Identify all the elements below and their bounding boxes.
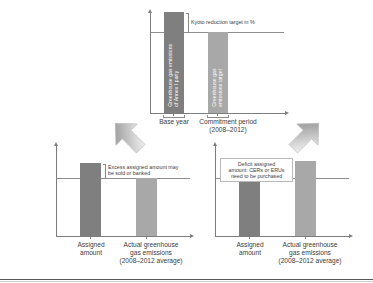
bar-label-line-2: emissions target: [218, 69, 224, 107]
bottom-right-chart: Deficit assigned amount: CERs or ERUs ne…: [215, 145, 355, 237]
xlabel-line-1: Actual greenhouse: [271, 241, 349, 249]
top-chart-reduction-callout: Kyoto reduction target in %: [191, 19, 255, 25]
right-chart-bar-assigned-amount: [239, 178, 260, 236]
left-chart-excess-callout: Excess assigned amount may be sold or ba…: [108, 164, 188, 177]
right-chart-y-axis: [215, 145, 216, 237]
top-chart-reduction-brace: [186, 13, 189, 33]
callout-line-2: be sold or banked: [108, 170, 188, 176]
top-chart-bar-commitment: Greenhouse gas emissions target: [208, 32, 228, 113]
xlabel-line-1: Assigned: [64, 241, 118, 249]
top-chart: Greenhouse gas emissions of Annex I part…: [150, 12, 290, 114]
xlabel-line-2: gas emissions: [271, 249, 349, 257]
top-chart-bar-base-year: Greenhouse gas emissions of Annex I part…: [164, 12, 184, 113]
right-chart-bar-actual-emissions: [295, 161, 316, 236]
xlabel-line-2: amount: [223, 249, 277, 257]
xlabel-line-3: (2008–2012 average): [271, 257, 349, 265]
left-chart-y-axis: [56, 145, 57, 237]
kyoto-protocol-diagram: Greenhouse gas emissions of Annex I part…: [0, 0, 373, 283]
top-chart-xlabel-commitment: Commitment period (2008–2012): [182, 118, 274, 134]
left-chart-reference-line: [57, 178, 190, 179]
xlabel-line-2: (2008–2012): [182, 126, 274, 134]
left-chart-tick-assigned: [90, 236, 91, 239]
xlabel-line-2: gas emissions: [112, 249, 190, 257]
left-chart-bar-assigned-amount: [80, 163, 101, 236]
top-chart-y-axis: [150, 12, 151, 114]
bottom-left-chart: Excess assigned amount may be sold or ba…: [56, 145, 196, 237]
left-chart-excess-brace: [103, 164, 106, 179]
right-chart-tick-assigned: [249, 236, 250, 239]
xlabel-line-1: Actual greenhouse: [112, 241, 190, 249]
callout-line-1: Kyoto reduction target in %: [191, 19, 255, 25]
right-chart-xlabel-actual-emissions: Actual greenhouse gas emissions (2008–20…: [271, 241, 349, 266]
left-chart-xlabel-assigned-amount: Assigned amount: [64, 241, 118, 257]
right-chart-xlabel-assigned-amount: Assigned amount: [223, 241, 277, 257]
bottom-divider: [0, 279, 373, 280]
bar-label-line-2: of Annex I party: [174, 44, 180, 107]
xlabel-line-1: Commitment period: [182, 118, 274, 126]
right-chart-x-axis: [215, 236, 349, 237]
caption-remnant: [22, 0, 322, 1]
xlabel-line-3: (2008–2012 average): [112, 257, 190, 265]
bottom-divider-shadow: [0, 281, 373, 282]
left-chart-x-axis: [56, 236, 190, 237]
left-chart-tick-actual: [146, 236, 147, 239]
top-chart-bar-base-year-label: Greenhouse gas emissions of Annex I part…: [168, 44, 180, 107]
xlabel-line-1: Assigned: [223, 241, 277, 249]
callout-line-3: need to be purchased: [224, 173, 290, 179]
left-chart-xlabel-actual-emissions: Actual greenhouse gas emissions (2008–20…: [112, 241, 190, 266]
xlabel-line-2: amount: [64, 249, 118, 257]
right-chart-tick-actual: [305, 236, 306, 239]
right-chart-deficit-callout: Deficit assigned amount: CERs or ERUs ne…: [220, 158, 293, 182]
left-chart-bar-actual-emissions: [136, 178, 157, 236]
top-chart-bar-commitment-label: Greenhouse gas emissions target: [212, 69, 224, 107]
